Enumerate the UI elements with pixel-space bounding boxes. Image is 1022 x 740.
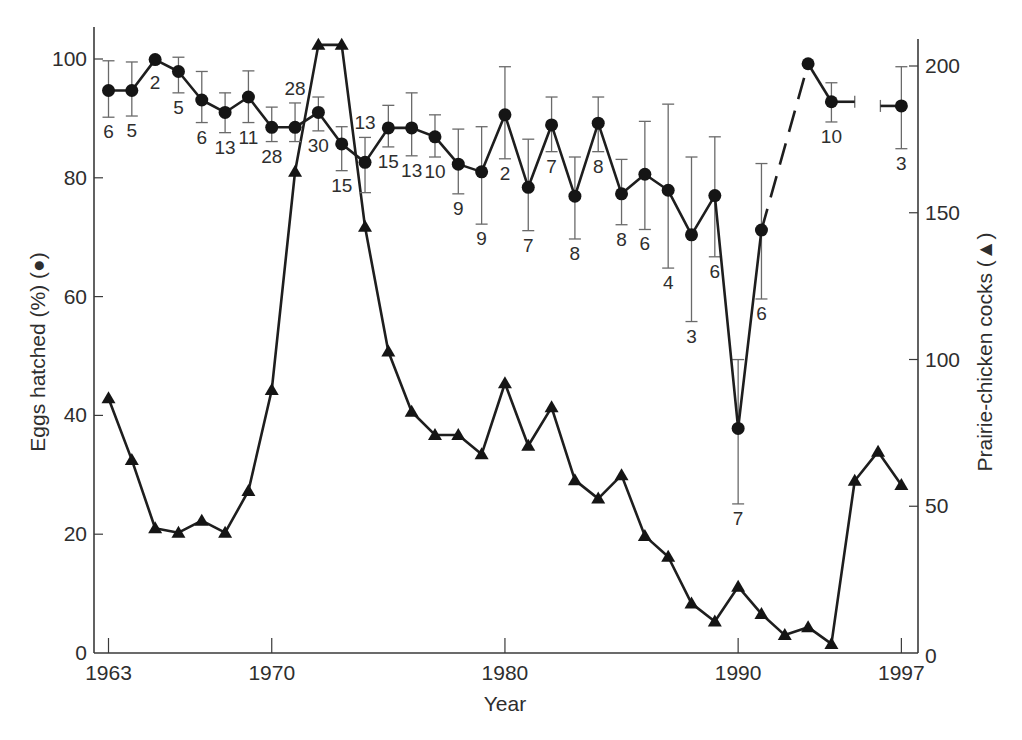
circle-marker — [592, 117, 605, 130]
circle-marker — [662, 184, 675, 197]
sample-size-label: 9 — [453, 198, 464, 219]
circle-marker — [522, 181, 535, 194]
circle-marker — [615, 187, 628, 200]
sample-size-label: 8 — [616, 229, 627, 250]
circle-marker — [289, 121, 302, 134]
circle-marker — [568, 190, 581, 203]
circle-marker — [359, 156, 372, 169]
sample-size-label: 2 — [500, 163, 511, 184]
left-y-tick-label: 20 — [64, 522, 87, 545]
triangle-marker — [568, 473, 582, 485]
circle-marker — [825, 95, 838, 108]
left-y-tick-label: 80 — [64, 166, 87, 189]
circle-marker — [685, 228, 698, 241]
error-bars — [103, 57, 908, 504]
circle-marker — [638, 168, 651, 181]
sample-size-label: 13 — [215, 137, 236, 158]
circle-marker — [405, 121, 418, 134]
sample-size-label: 6 — [103, 121, 114, 142]
triangle-marker — [288, 165, 302, 177]
right-y-tick-label: 50 — [925, 494, 948, 517]
circle-marker — [802, 57, 815, 70]
circle-marker — [545, 118, 558, 131]
triangle-marker — [381, 345, 395, 357]
circle-marker — [755, 224, 768, 237]
circle-marker — [475, 165, 488, 178]
left-y-tick-label: 60 — [64, 285, 87, 308]
circle-marker — [428, 130, 441, 143]
circle-marker — [498, 108, 511, 121]
circle-marker — [732, 422, 745, 435]
right-y-tick-label: 0 — [925, 644, 937, 667]
triangle-marker — [731, 580, 745, 592]
sample-size-label: 3 — [686, 326, 697, 347]
triangle-marker — [685, 596, 699, 608]
sample-size-label: 30 — [308, 135, 329, 156]
sample-size-label: 15 — [378, 151, 399, 172]
left-y-axis-title: Eggs hatched (%) (●) — [26, 252, 49, 451]
x-tick-label: 1997 — [878, 661, 925, 684]
triangle-marker — [125, 453, 139, 465]
circle-marker — [452, 158, 465, 171]
circle-marker — [312, 106, 325, 119]
circle-marker — [242, 91, 255, 104]
sample-size-label: 9 — [476, 228, 487, 249]
sample-size-label: 6 — [196, 127, 207, 148]
x-tick-label: 1980 — [482, 661, 529, 684]
sample-size-label: 7 — [733, 508, 744, 529]
circle-marker — [102, 84, 115, 97]
sample-size-label: 7 — [546, 156, 557, 177]
left-y-tick-label: 100 — [52, 47, 87, 70]
sample-size-label: 8 — [593, 156, 604, 177]
sample-size-label: 10 — [424, 161, 445, 182]
triangle-marker — [521, 439, 535, 451]
x-tick-label: 1970 — [248, 661, 295, 684]
sample-size-label: 28 — [284, 78, 305, 99]
right-y-tick-label: 150 — [925, 201, 960, 224]
circle-marker — [219, 106, 232, 119]
triangle-marker — [148, 521, 162, 533]
left-y-tick-label: 40 — [64, 403, 87, 426]
sample-size-label: 6 — [640, 233, 651, 254]
circle-marker — [382, 121, 395, 134]
sample-size-label: 28 — [261, 146, 282, 167]
right-y-tick-label: 100 — [925, 348, 960, 371]
triangle-marker — [358, 220, 372, 232]
sample-size-label: 11 — [239, 127, 259, 148]
triangle-marker — [871, 445, 885, 457]
x-tick-label: 1990 — [715, 661, 762, 684]
x-axis-title: Year — [484, 692, 526, 715]
sample-size-label: 13 — [354, 112, 375, 133]
triangle-marker — [102, 391, 116, 403]
triangle-marker — [545, 400, 559, 412]
sample-size-label: 7 — [523, 235, 534, 256]
triangle-marker — [615, 468, 629, 480]
sample-size-label: 6 — [710, 261, 721, 282]
sample-size-label: 5 — [127, 120, 138, 141]
sample-size-label: 3 — [896, 153, 907, 174]
dual-axis-line-chart: 1963197019801990199702040608010005010015… — [0, 0, 1022, 740]
triangle-marker — [265, 383, 279, 395]
left-y-tick-label: 0 — [75, 641, 87, 664]
right-y-axis-title: Prairie-chicken cocks (▲) — [973, 233, 996, 472]
right-y-tick-label: 200 — [925, 54, 960, 77]
sample-size-label: 8 — [570, 243, 581, 264]
triangle-marker — [824, 637, 838, 649]
circle-marker — [172, 65, 185, 78]
sample-size-label: 10 — [821, 126, 842, 147]
triangle-marker — [195, 514, 209, 526]
circle-marker — [125, 84, 138, 97]
sample-size-label: 5 — [173, 97, 184, 118]
triangle-marker — [498, 376, 512, 388]
chart-figure: 1963197019801990199702040608010005010015… — [0, 0, 1022, 740]
triangle-marker — [241, 484, 255, 496]
sample-size-label: 13 — [401, 160, 422, 181]
triangle-marker — [405, 405, 419, 417]
circle-marker — [149, 53, 162, 66]
sample-size-label: 6 — [756, 303, 767, 324]
sample-size-label: 15 — [331, 175, 352, 196]
circle-marker — [895, 99, 908, 112]
triangle-marker — [638, 529, 652, 541]
eggs-dashed-connector — [761, 64, 808, 230]
x-tick-label: 1963 — [85, 661, 132, 684]
